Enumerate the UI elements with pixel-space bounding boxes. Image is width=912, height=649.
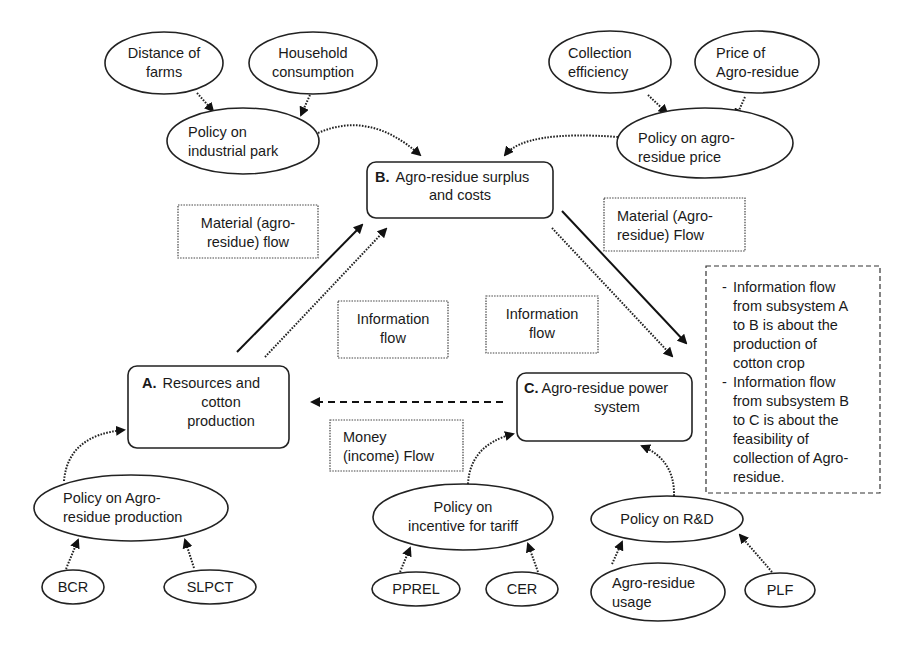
factor-label: Agro-residue	[716, 64, 799, 80]
flow-label-text: flow	[380, 330, 406, 346]
arrow-production-policy-to-A	[64, 430, 124, 481]
factor-plf: PLF	[745, 573, 815, 607]
subsystem-B-subtitle: and costs	[429, 187, 491, 203]
arrow-household-to-industrial-park	[301, 95, 310, 115]
subsystem-C-title: C.Agro-residue power	[524, 380, 668, 396]
factor-slpct: SLPCT	[164, 570, 256, 604]
note-text: Information flow	[733, 279, 836, 295]
arrow-pprel-to-incentive-policy	[400, 548, 410, 572]
policy-label: Policy on Agro-	[63, 490, 161, 506]
factor-label: farms	[146, 64, 182, 80]
factor-pprel: PPREL	[372, 572, 460, 606]
factor-label: SLPCT	[187, 579, 234, 595]
note-text: collection of Agro-	[733, 450, 848, 466]
factor-label: consumption	[272, 64, 354, 80]
policy-label: Policy on	[188, 124, 247, 140]
label-money-flow: Money (income) Flow	[330, 420, 463, 471]
arrow-collection-to-price-policy	[648, 95, 667, 113]
note-text: production of	[733, 336, 818, 352]
flow-label-text: Information	[506, 306, 579, 322]
note-text: cotton crop	[733, 355, 805, 371]
note-text: from subsystem A	[733, 298, 849, 314]
note-text: from subsystem B	[733, 393, 849, 409]
policy-label: Policy on agro-	[638, 130, 735, 146]
factor-label: Price of	[716, 45, 766, 61]
factor-label: BCR	[58, 579, 89, 595]
factor-label: CER	[507, 581, 538, 597]
label-material-flow-A-B: Material (agro- residue) flow	[178, 205, 318, 258]
factor-household-consumption: Household consumption	[249, 32, 377, 94]
flow-label-text: (income) Flow	[343, 448, 435, 464]
arrow-distance-to-industrial-park	[197, 93, 213, 111]
factor-label: Distance of	[128, 45, 202, 61]
flow-label-text: Material (Agro-	[617, 208, 713, 224]
subsystem-B-title: B.Agro-residue surplus	[375, 169, 529, 185]
arrow-usage-to-rnd-policy	[612, 542, 622, 564]
note-text: to C is about the	[733, 412, 839, 428]
factor-label: PLF	[767, 582, 794, 598]
policy-industrial-park: Policy on industrial park	[167, 108, 319, 174]
factor-label: PPREL	[392, 581, 440, 597]
note-text: Information flow	[733, 374, 836, 390]
system-diagram: Distance of farms Household consumption …	[0, 0, 912, 649]
note-box: - Information flow from subsystem A to B…	[706, 266, 880, 493]
policy-label: Policy on R&D	[620, 511, 713, 527]
policy-label: residue production	[63, 509, 182, 525]
arrow-price-policy-to-B	[505, 135, 618, 155]
arrow-rnd-policy-to-C	[642, 446, 674, 496]
policy-rnd: Policy on R&D	[591, 496, 743, 542]
flow-label-text: flow	[529, 325, 555, 341]
factor-price-of-agro-residue: Price of Agro-residue	[695, 31, 819, 93]
policy-label: residue price	[638, 149, 721, 165]
arrow-industrial-park-to-B	[318, 125, 420, 155]
subsystem-C-line: system	[594, 399, 640, 415]
arrow-cer-to-incentive-policy	[528, 544, 538, 572]
arrow-incentive-policy-to-C	[468, 434, 513, 484]
subsystem-A-line: production	[187, 413, 255, 429]
arrow-plf-to-rnd-policy	[740, 535, 772, 572]
factor-label: efficiency	[568, 64, 629, 80]
factor-collection-efficiency: Collection efficiency	[549, 31, 671, 93]
note-bullet-dash: -	[722, 279, 727, 295]
factor-agro-residue-usage: Agro-residue usage	[591, 563, 725, 621]
note-text: residue.	[733, 469, 785, 485]
policy-label: Policy on	[434, 499, 493, 515]
factor-cer: CER	[486, 572, 558, 606]
flow-label-text: Material (agro-	[201, 215, 295, 231]
policy-label: industrial park	[188, 143, 279, 159]
subsystem-C: C.Agro-residue power system	[517, 373, 692, 441]
factor-label: Household	[278, 45, 347, 61]
flow-label-text: Money	[343, 429, 387, 445]
policy-incentive-for-tariff: Policy on incentive for tariff	[373, 484, 553, 550]
label-material-flow-B-C: Material (Agro- residue) Flow	[604, 198, 745, 251]
flow-label-text: residue) Flow	[617, 227, 705, 243]
subsystem-B: B.Agro-residue surplus and costs	[367, 162, 553, 218]
factor-label: Agro-residue	[612, 575, 695, 591]
factor-label: Collection	[568, 45, 632, 61]
note-bullet-dash: -	[722, 374, 727, 390]
subsystem-A-line: cotton	[201, 394, 241, 410]
label-information-flow-B-C: Information flow	[486, 296, 598, 353]
factor-bcr: BCR	[42, 570, 104, 604]
flow-label-text: Information	[357, 311, 430, 327]
factor-distance-of-farms: Distance of farms	[105, 32, 223, 94]
arrow-bcr-to-production-policy	[66, 540, 78, 569]
note-text: feasibility of	[733, 431, 810, 447]
arrow-slpct-to-production-policy	[185, 540, 194, 568]
subsystem-A: A.Resources and cotton production	[128, 366, 289, 448]
policy-agro-residue-price: Policy on agro- residue price	[617, 108, 793, 178]
flow-label-text: residue) flow	[207, 234, 290, 250]
note-text: to B is about the	[733, 317, 838, 333]
factor-label: usage	[612, 594, 652, 610]
policy-label: incentive for tariff	[408, 518, 519, 534]
label-information-flow-A-B: Information flow	[338, 301, 448, 358]
policy-agro-residue-production: Policy on Agro- residue production	[34, 475, 228, 541]
